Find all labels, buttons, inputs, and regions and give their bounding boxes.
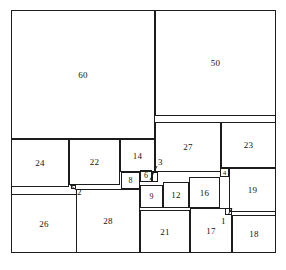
square-22: 22	[69, 139, 120, 185]
dissection-board: 6050272324221486912164192628211718 321	[11, 10, 276, 253]
square-label-26: 26	[12, 219, 76, 228]
square-12: 12	[163, 182, 189, 208]
square-8: 8	[121, 172, 140, 189]
square-4: 4	[220, 168, 229, 177]
square-label-28: 28	[77, 217, 139, 226]
square-50: 50	[155, 10, 276, 116]
square-27: 27	[155, 122, 221, 172]
square-19: 19	[229, 168, 276, 212]
square-9: 9	[140, 185, 163, 208]
square-label-50: 50	[156, 59, 275, 68]
square-label-9: 9	[141, 193, 162, 201]
square-label-12: 12	[164, 191, 188, 200]
square-label-8: 8	[122, 177, 139, 185]
square-label-24: 24	[12, 159, 68, 168]
square-28: 28	[76, 189, 140, 253]
square-label-27: 27	[156, 143, 220, 152]
square-26: 26	[11, 194, 77, 253]
square-24: 24	[11, 139, 69, 187]
square-label-17: 17	[191, 226, 231, 235]
square-1	[225, 208, 232, 215]
square-16: 16	[189, 177, 220, 208]
square-label-4: 4	[221, 169, 228, 176]
square-label-19: 19	[230, 186, 275, 195]
square-label-16: 16	[190, 188, 219, 197]
square-label-21: 21	[141, 227, 189, 236]
square-label-23: 23	[222, 141, 275, 150]
square-label-60: 60	[12, 70, 154, 79]
square-60: 60	[11, 10, 155, 139]
square-21: 21	[140, 210, 190, 253]
square-6: 6	[140, 170, 152, 182]
square-14: 14	[120, 139, 155, 172]
square-label-6: 6	[141, 172, 151, 180]
square-23: 23	[221, 122, 276, 168]
square-label-18: 18	[233, 230, 275, 239]
square-3	[152, 172, 158, 182]
square-label-14: 14	[121, 151, 154, 160]
squared-square-figure: 6050272324221486912164192628211718 321	[0, 0, 286, 270]
square-18: 18	[232, 215, 276, 253]
square-label-22: 22	[70, 158, 119, 167]
